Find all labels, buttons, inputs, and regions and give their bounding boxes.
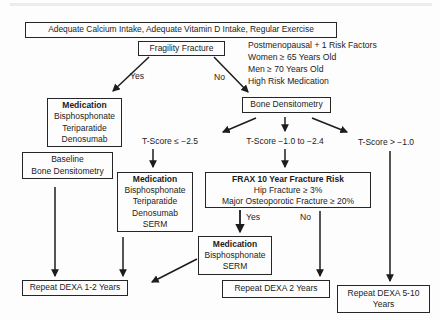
- node-repeat-dexa-2-label: Repeat DEXA 2 Years: [234, 283, 317, 294]
- node-bone-densitometry-label: Bone Densitometry: [250, 99, 322, 110]
- risk-factor-item: High Risk Medication: [248, 75, 377, 87]
- node-frax-title: FRAX 10 Year Fracture Risk: [232, 174, 344, 185]
- node-medication-2-line: Denosumab: [132, 208, 178, 219]
- risk-factor-item: Women ≥ 65 Years Old: [248, 51, 377, 63]
- node-repeat-dexa-1-2: Repeat DEXA 1-2 Years: [22, 280, 128, 296]
- node-medication-3-line: Bisphosphonate: [205, 250, 266, 261]
- node-medication-2-title: Medication: [133, 174, 177, 185]
- node-medication-2-line: Teriparatide: [133, 196, 177, 207]
- risk-factors-list: Postmenopausal + 1 Risk Factors Women ≥ …: [248, 39, 377, 87]
- node-medication-1-line: Denosumab: [62, 134, 108, 145]
- node-fragility-fracture: Fragility Fracture: [138, 41, 225, 56]
- node-medication-1: Medication Bisphosphonate Teriparatide D…: [47, 98, 122, 147]
- node-repeat-dexa-5-10: Repeat DEXA 5-10 Years: [337, 285, 430, 313]
- risk-factor-item: Men ≥ 70 Years Old: [248, 63, 377, 75]
- node-repeat-dexa-2: Repeat DEXA 2 Years: [222, 280, 330, 298]
- node-bone-densitometry: Bone Densitometry: [242, 97, 331, 113]
- node-baseline-line: Bone Densitometry: [31, 166, 103, 177]
- flowchart-canvas: Adequate Calcium Intake, Adequate Vitami…: [0, 0, 440, 320]
- edge-label-yes: Yes: [130, 71, 144, 81]
- node-medication-1-line: Teriparatide: [62, 123, 106, 134]
- arrow-medication3-diagonal: [152, 259, 197, 282]
- edge-label-no: No: [214, 72, 225, 82]
- node-frax-risk: FRAX 10 Year Fracture Risk Hip Fracture …: [205, 172, 371, 208]
- node-medication-3: Medication Bisphosphonate SERM: [198, 236, 272, 275]
- node-medication-2-line: Bisphosphonate: [125, 185, 186, 196]
- scan-artifact: [10, 3, 432, 6]
- edge-label-frax-no: No: [300, 212, 311, 222]
- label-tscore-low: T-Score ≤ −2.5: [136, 136, 204, 146]
- node-medication-2-line: SERM: [143, 219, 168, 230]
- risk-factor-item: Postmenopausal + 1 Risk Factors: [248, 39, 377, 51]
- node-frax-line: Major Osteoporotic Fracture ≥ 20%: [222, 196, 354, 207]
- node-medication-3-title: Medication: [213, 239, 257, 250]
- node-medication-3-line: SERM: [223, 261, 248, 272]
- edge-label-frax-yes: Yes: [246, 212, 260, 222]
- node-medication-1-line: Bisphosphonate: [54, 111, 115, 122]
- node-medication-1-title: Medication: [62, 100, 106, 111]
- node-frax-line: Hip Fracture ≥ 3%: [254, 185, 322, 196]
- label-tscore-high: T-Score > −1.0: [353, 137, 419, 147]
- node-guidance: Adequate Calcium Intake, Adequate Vitami…: [25, 22, 337, 38]
- arrow-densitometry-right: [312, 118, 347, 132]
- arrow-densitometry-left: [223, 118, 256, 132]
- node-medication-2: Medication Bisphosphonate Teriparatide D…: [117, 172, 193, 232]
- label-tscore-mid: T-Score −1.0 to −2.4: [241, 136, 329, 146]
- node-repeat-dexa-5-10-label: Repeat DEXA 5-10 Years: [342, 288, 425, 310]
- node-baseline-line: Baseline: [51, 154, 84, 165]
- node-fragility-label: Fragility Fracture: [150, 43, 214, 54]
- node-baseline-densitometry: Baseline Bone Densitometry: [22, 152, 113, 179]
- node-repeat-dexa-1-2-label: Repeat DEXA 1-2 Years: [30, 282, 121, 293]
- node-guidance-label: Adequate Calcium Intake, Adequate Vitami…: [48, 24, 314, 35]
